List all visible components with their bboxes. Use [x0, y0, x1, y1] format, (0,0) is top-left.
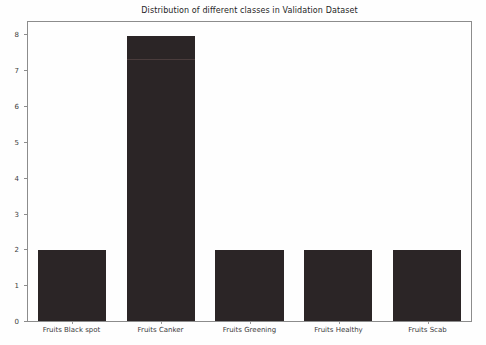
- bars-container: [28, 22, 471, 321]
- y-tick-label: 7: [15, 68, 19, 75]
- bar-slot: [382, 22, 471, 321]
- bar-fruits-scab: [393, 250, 461, 321]
- bar-fruits-black-spot: [38, 250, 106, 321]
- bar-slot: [28, 22, 117, 321]
- x-tick-label: Fruits Black spot: [27, 326, 116, 334]
- y-axis: 012345678: [0, 21, 27, 322]
- chart-title: Distribution of different classes in Val…: [27, 6, 472, 15]
- bar-fruits-healthy: [304, 250, 372, 321]
- bar-fruits-canker: [127, 36, 195, 321]
- bar-slot: [117, 22, 206, 321]
- x-tick-label: Fruits Canker: [116, 326, 205, 334]
- bar-slot: [294, 22, 383, 321]
- x-tick-mark: [250, 322, 251, 324]
- y-tick-label: 8: [15, 32, 19, 39]
- bar-inner-highlight-line: [127, 59, 195, 60]
- bar-slot: [205, 22, 294, 321]
- x-tick-label: Fruits Healthy: [294, 326, 383, 334]
- x-tick-mark: [161, 322, 162, 324]
- y-tick-label: 1: [15, 283, 19, 290]
- x-tick-mark: [72, 322, 73, 324]
- y-tick-label: 6: [15, 104, 19, 111]
- y-tick-label: 5: [15, 139, 19, 146]
- bar-fruits-greening: [215, 250, 283, 321]
- x-label-slot: Fruits Scab: [383, 322, 472, 338]
- x-tick-label: Fruits Greening: [205, 326, 294, 334]
- x-label-slot: Fruits Black spot: [27, 322, 116, 338]
- y-tick-label: 4: [15, 175, 19, 182]
- plot-area: [27, 21, 472, 322]
- x-label-slot: Fruits Greening: [205, 322, 294, 338]
- bar-chart-figure: Distribution of different classes in Val…: [0, 0, 486, 345]
- x-tick-mark: [339, 322, 340, 324]
- x-label-slot: Fruits Canker: [116, 322, 205, 338]
- x-tick-mark: [428, 322, 429, 324]
- x-axis-labels: Fruits Black spotFruits CankerFruits Gre…: [27, 322, 472, 338]
- x-tick-label: Fruits Scab: [383, 326, 472, 334]
- y-tick-label: 0: [15, 319, 19, 326]
- x-label-slot: Fruits Healthy: [294, 322, 383, 338]
- y-tick-label: 3: [15, 211, 19, 218]
- y-tick-label: 2: [15, 247, 19, 254]
